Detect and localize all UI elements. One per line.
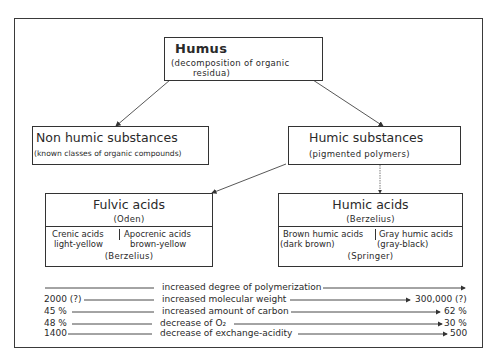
fulvic-divider (46, 226, 212, 227)
crenic-acids-color: light-yellow (54, 239, 103, 249)
humus-subtitle-2: residua) (193, 68, 230, 78)
trend-label-1: increased molecular weight (160, 294, 288, 304)
humic-substances-box: Humic substances (pigmented polymers) (288, 126, 461, 165)
humus-title: Humus (175, 41, 227, 56)
brown-humic-acids-color: (dark brown) (280, 239, 335, 249)
trend-right-value-4: 500 (450, 328, 467, 338)
humic-acids-author: (Berzelius) (279, 214, 462, 224)
trend-left-value-4: 1400 (44, 328, 67, 338)
trend-left-value-3: 48 % (44, 318, 67, 328)
arrow-humic-to-fulvic (212, 164, 286, 193)
humic-acids-divider (279, 226, 462, 227)
trend-label-2: increased amount of carbon (160, 306, 291, 316)
humic-acids-footer: (Springer) (279, 251, 462, 261)
apocrenic-acids-color: brown-yellow (130, 239, 186, 249)
trend-label-3: decrease of O₂ (158, 318, 228, 328)
trend-label-0: increased degree of polymerization (160, 282, 323, 292)
humic-acids-vertical-divider (375, 229, 376, 240)
fulvic-footer: (Berzelius) (46, 251, 212, 261)
humus-subtitle-1: (decomposition of organic (171, 58, 289, 68)
fulvic-acids-box: Fulvic acids (Oden) Crenic acids light-y… (45, 193, 213, 267)
apocrenic-acids-label: Apocrenic acids (124, 229, 191, 239)
trend-left-value-2: 45 % (44, 306, 67, 316)
fulvic-author: (Oden) (46, 214, 212, 224)
trend-left-value-1: 2000 (?) (44, 294, 82, 304)
gray-humic-acids-label: Gray humic acids (379, 229, 453, 239)
humic-acids-box: Humic acids (Berzelius) Brown humic acid… (278, 193, 463, 267)
humus-box: Humus (decomposition of organic residua) (164, 37, 323, 81)
arrow-humus-to-humic (313, 80, 383, 126)
crenic-acids-label: Crenic acids (52, 229, 104, 239)
humic-substances-title: Humic substances (309, 130, 423, 145)
gray-humic-acids-color: (gray-black) (377, 239, 428, 249)
humic-substances-subtitle: (pigmented polymers) (309, 149, 410, 159)
non-humic-box: Non humic substances (known classes of o… (32, 126, 209, 165)
trend-right-value-1: 300,000 (?) (415, 294, 467, 304)
non-humic-subtitle: (known classes of organic compounds) (34, 149, 182, 158)
arrow-humus-to-nonhumic (116, 80, 170, 126)
trend-right-value-2: 62 % (444, 306, 467, 316)
non-humic-title: Non humic substances (36, 130, 178, 145)
fulvic-vertical-divider (119, 229, 120, 240)
humic-acids-title: Humic acids (279, 197, 462, 212)
brown-humic-acids-label: Brown humic acids (283, 229, 363, 239)
trend-label-4: decrease of exchange-acidity (158, 328, 294, 338)
trend-right-value-3: 30 % (444, 318, 467, 328)
fulvic-title: Fulvic acids (46, 197, 212, 212)
